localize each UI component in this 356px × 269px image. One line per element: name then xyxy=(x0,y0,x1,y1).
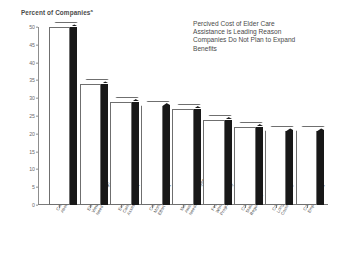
bar-side-face xyxy=(132,102,139,205)
bar-side-face xyxy=(225,120,232,205)
y-axis-tick-label: 20 xyxy=(29,131,35,137)
bar-side-face xyxy=(194,109,201,205)
bar xyxy=(172,109,194,205)
y-axis-tick-mark xyxy=(36,62,39,63)
bar-side-face xyxy=(70,27,77,205)
y-axis-tick-mark xyxy=(36,133,39,134)
bar xyxy=(296,130,318,205)
bar-front-face xyxy=(110,102,132,205)
y-axis-tick-mark xyxy=(36,205,39,206)
bar-front-face xyxy=(80,84,102,205)
y-axis-tick-mark xyxy=(36,27,39,28)
y-axis-title-superscript: a xyxy=(90,8,92,13)
y-axis-tick-label: 30 xyxy=(29,95,35,101)
x-axis-tick-mark xyxy=(152,205,153,208)
bar xyxy=(203,120,225,205)
y-axis-tick-mark xyxy=(36,151,39,152)
bar-front-face xyxy=(203,120,225,205)
x-axis-tick-mark xyxy=(245,205,246,208)
y-axis-tick-mark xyxy=(36,187,39,188)
bar-front-face xyxy=(141,105,163,205)
bar xyxy=(49,27,71,205)
bar-side-face xyxy=(286,130,293,205)
x-axis-tick-mark xyxy=(214,205,215,208)
y-axis-tick-label: 40 xyxy=(29,60,35,66)
plot-area: 05101520253035404550 xyxy=(38,27,328,205)
y-axis-tick-label: 35 xyxy=(29,77,35,83)
y-axis-tick-mark xyxy=(36,116,39,117)
bar-side-face xyxy=(163,105,170,205)
bar xyxy=(265,130,287,205)
y-axis-tick-label: 10 xyxy=(29,166,35,172)
x-axis-tick-mark xyxy=(121,205,122,208)
bar xyxy=(234,127,256,205)
bar-front-face xyxy=(296,130,318,205)
bar xyxy=(141,105,163,205)
x-axis-tick-mark xyxy=(59,205,60,208)
bar-front-face xyxy=(49,27,71,205)
bar-front-face xyxy=(234,127,256,205)
bar-side-face xyxy=(256,127,263,205)
y-axis-tick-mark xyxy=(36,169,39,170)
y-axis-tick-mark xyxy=(36,80,39,81)
x-axis-tick-mark xyxy=(183,205,184,208)
bar-front-face xyxy=(172,109,194,205)
y-axis-tick-mark xyxy=(36,44,39,45)
bar xyxy=(110,102,132,205)
chart-container: Percent of Companiesa Percived Cost of E… xyxy=(0,0,356,269)
x-axis-tick-mark xyxy=(90,205,91,208)
y-axis-title: Percent of Companiesa xyxy=(21,8,93,16)
y-axis-line xyxy=(38,27,39,205)
bar-side-face xyxy=(317,130,324,205)
bar-front-face xyxy=(265,130,287,205)
x-axis-tick-mark xyxy=(276,205,277,208)
y-axis-tick-label: 50 xyxy=(29,24,35,30)
y-axis-tick-label: 15 xyxy=(29,149,35,155)
y-axis-tick-mark xyxy=(36,98,39,99)
y-axis-tick-label: 45 xyxy=(29,42,35,48)
bar xyxy=(80,84,102,205)
y-axis-tick-label: 25 xyxy=(29,113,35,119)
y-axis-title-text: Percent of Companies xyxy=(21,9,90,16)
bar-side-face xyxy=(101,84,108,205)
x-axis-tick-mark xyxy=(307,205,308,208)
